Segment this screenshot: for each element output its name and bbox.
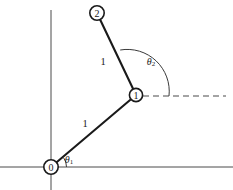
joint-1: 1 — [129, 88, 142, 101]
diagram-canvas: 0 1 2 1 1 θ1 θ2 — [0, 0, 233, 190]
joint-2-label: 2 — [95, 8, 100, 19]
joint-2: 2 — [90, 6, 104, 20]
joint-1-label: 1 — [134, 90, 139, 101]
theta-2-label: θ2 — [147, 56, 156, 69]
theta-1-label: θ1 — [65, 154, 74, 167]
link-2-length-label: 1 — [100, 56, 105, 67]
link-segment-1 — [51, 95, 136, 167]
theta-2-subscript: 2 — [152, 60, 156, 68]
link-segment-2 — [97, 13, 136, 95]
joint-0: 0 — [44, 160, 58, 174]
link-1-length-label: 1 — [82, 118, 87, 129]
theta-1-subscript: 1 — [70, 158, 74, 166]
theta-2-arc — [120, 49, 169, 96]
two-link-manipulator-figure: 0 1 2 1 1 θ1 θ2 — [0, 0, 233, 190]
joint-0-label: 0 — [49, 162, 54, 173]
